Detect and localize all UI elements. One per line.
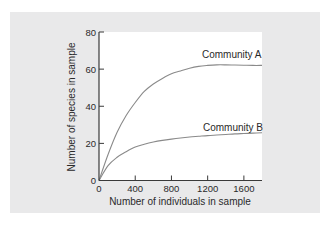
x-tick-label: 800 — [164, 183, 180, 194]
y-tick-label: 0 — [91, 175, 96, 186]
y-tick-label: 60 — [85, 64, 96, 75]
y-tick-label: 20 — [85, 138, 96, 149]
x-tick-label: 0 — [96, 183, 101, 194]
x-axis-title: Number of individuals in sample — [109, 196, 251, 207]
y-tick-label: 40 — [85, 101, 96, 112]
x-tick-label: 400 — [127, 183, 143, 194]
x-tick-label: 1600 — [233, 183, 254, 194]
species-accumulation-chart: 020406080 040080012001600 Community A Co… — [0, 0, 327, 231]
series-label-community-b: Community B — [203, 122, 263, 133]
x-tick-label: 1200 — [197, 183, 218, 194]
series-label-community-a: Community A — [202, 49, 262, 60]
y-axis-title: Number of species in sample — [66, 42, 77, 171]
y-tick-label: 80 — [85, 27, 96, 38]
